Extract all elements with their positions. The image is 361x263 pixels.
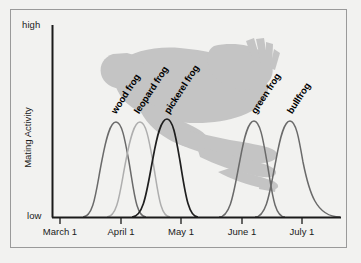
x-tick-label-april: April 1: [89, 226, 153, 237]
x-tick-label-july: July 1: [270, 226, 334, 237]
x-tick-label-may: May 1: [149, 226, 213, 237]
frog-silhouette-icon: [101, 38, 280, 192]
y-axis-low-label: low: [27, 210, 42, 221]
figure-container: high low Mating Activity March 1 April 1…: [0, 0, 361, 263]
curve-wood-frog: [83, 122, 146, 217]
y-axis-title: Mating Activity: [22, 93, 33, 183]
chart-plot-area: [0, 0, 361, 263]
y-axis-high-label: high: [22, 19, 40, 30]
x-axis-ticks: [60, 218, 302, 224]
x-tick-label-june: June 1: [210, 226, 274, 237]
curve-leopard-frog: [107, 122, 170, 217]
x-tick-label-march: March 1: [28, 226, 92, 237]
